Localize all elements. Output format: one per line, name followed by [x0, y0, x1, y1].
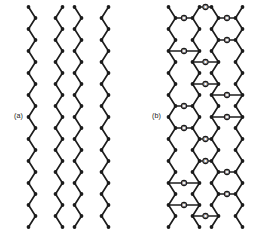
chain-atom	[34, 148, 38, 152]
oxygen-atom-label: O	[203, 213, 207, 219]
chain-atom	[34, 104, 38, 108]
chain-atom	[167, 137, 171, 141]
chain-atom	[34, 16, 38, 20]
chain-atom	[54, 82, 58, 86]
oxygen-atom-label: O	[225, 169, 229, 175]
chain-atom	[107, 115, 111, 119]
chain-atom	[234, 148, 238, 152]
chain-atom	[27, 115, 31, 119]
chain-atom	[167, 27, 171, 31]
oxygen-bridge: O	[200, 136, 212, 142]
chain-atom	[61, 159, 65, 163]
chain-atom	[34, 214, 38, 218]
chain-atom	[198, 27, 202, 31]
chain-atom	[174, 214, 178, 218]
chain-atom	[241, 27, 245, 31]
chain-atom	[210, 49, 214, 53]
chain-atom	[54, 104, 58, 108]
oxygen-atom-label: O	[182, 103, 186, 109]
chain-a-1	[54, 5, 65, 229]
chain-atom	[61, 181, 65, 185]
oxygen-bridge: O	[169, 48, 200, 54]
chain-atom	[80, 192, 84, 196]
oxygen-atom-label: O	[182, 202, 186, 208]
chain-atom	[73, 181, 77, 185]
oxygen-atom-label: O	[225, 114, 229, 120]
oxygen-atom-label: O	[203, 4, 207, 10]
chain-atom	[34, 192, 38, 196]
chain-atom	[198, 93, 202, 97]
oxygen-atom-label: O	[203, 59, 207, 65]
oxygen-bridge: O	[169, 202, 200, 208]
chain-atom	[80, 214, 84, 218]
chain-atom	[107, 5, 111, 9]
chain-atom	[107, 27, 111, 31]
chain-atom	[54, 148, 58, 152]
oxygen-atom-label: O	[203, 81, 207, 87]
oxygen-atom-label: O	[203, 158, 207, 164]
oxygen-atom-label: O	[203, 136, 207, 142]
chain-atom	[107, 49, 111, 53]
oxygen-bridge: O	[200, 158, 212, 164]
chain-atom	[107, 93, 111, 97]
chain-atom	[241, 159, 245, 163]
chain-atom	[241, 71, 245, 75]
chain-atom	[80, 126, 84, 130]
oxygen-bridge: O	[212, 114, 243, 120]
chain-atom	[210, 71, 214, 75]
oxygen-bridge: O	[219, 37, 236, 43]
chain-atom	[61, 93, 65, 97]
chain-atom	[54, 38, 58, 42]
chain-atom	[80, 82, 84, 86]
oxygen-atom-label: O	[225, 37, 229, 43]
chain-atom	[27, 137, 31, 141]
cropped-caption-strip	[0, 227, 267, 234]
chain-atom	[191, 192, 195, 196]
chain-atom	[73, 71, 77, 75]
chain-atom	[234, 82, 238, 86]
chain-atom	[73, 27, 77, 31]
chain-atom	[174, 82, 178, 86]
chain-atom	[80, 148, 84, 152]
chain-a-0	[27, 5, 38, 229]
chain-atom	[234, 126, 238, 130]
chain-atom	[167, 71, 171, 75]
chain-atom	[241, 49, 245, 53]
chain-atom	[61, 203, 65, 207]
chain-atom	[73, 203, 77, 207]
chain-atom	[61, 27, 65, 31]
chain-a-3	[100, 5, 111, 229]
oxygen-bridge: O	[169, 180, 200, 186]
chain-atom	[210, 27, 214, 31]
chain-atom	[61, 5, 65, 9]
chain-atom	[27, 27, 31, 31]
chain-atom	[34, 60, 38, 64]
chain-atom	[241, 137, 245, 141]
chain-atom	[167, 159, 171, 163]
chain-atom	[100, 192, 104, 196]
chain-atom	[198, 71, 202, 75]
chain-atom	[34, 126, 38, 130]
chain-atom	[80, 104, 84, 108]
chain-atom	[174, 148, 178, 152]
chain-atom	[210, 203, 214, 207]
chain-atom	[174, 38, 178, 42]
chain-atom	[80, 60, 84, 64]
panel-b: OOOOOOOOOOOOOOOOOO(b)	[152, 4, 244, 229]
chain-atom	[27, 49, 31, 53]
chain-atom	[54, 16, 58, 20]
panel-a: (a)	[14, 5, 110, 229]
oxygen-atom-label: O	[225, 15, 229, 21]
oxygen-bridge: O	[193, 81, 219, 87]
chain-atom	[73, 137, 77, 141]
chain-atom	[73, 5, 77, 9]
chain-atom	[34, 82, 38, 86]
figure-canvas: (a)OOOOOOOOOOOOOOOOOO(b)	[0, 0, 267, 234]
chain-atom	[191, 148, 195, 152]
oxygen-bridge: O	[176, 15, 193, 21]
chain-atom	[61, 137, 65, 141]
chain-atom	[73, 93, 77, 97]
oxygen-bridge: O	[212, 92, 243, 98]
chain-atom	[34, 170, 38, 174]
oxygen-atom-label: O	[182, 15, 186, 21]
